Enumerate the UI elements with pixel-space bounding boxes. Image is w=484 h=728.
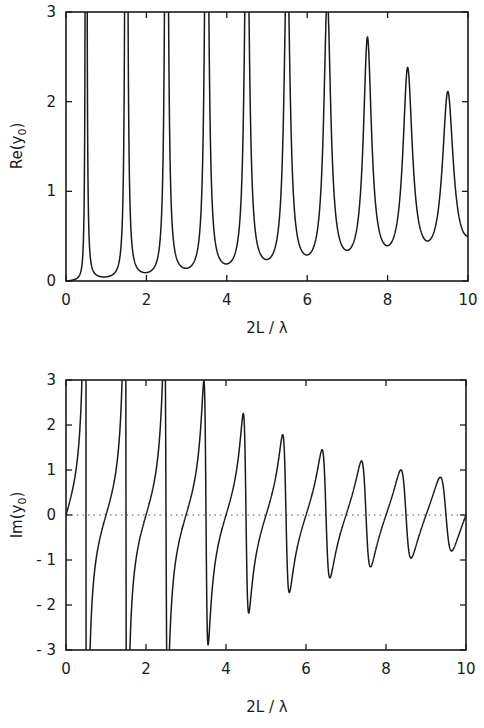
data-line-segment — [128, 12, 164, 273]
x-tick-label: 4 — [222, 291, 232, 309]
y-tick-label: 3 — [46, 371, 56, 389]
x-tick-label: 0 — [61, 660, 71, 678]
x-tick-label: 10 — [456, 660, 475, 678]
x-tick-label: 6 — [301, 660, 311, 678]
data-line-segment — [165, 380, 166, 650]
x-tick-label: 4 — [221, 660, 231, 678]
y-tick-label: 3 — [46, 3, 56, 21]
data-line-segment — [289, 12, 326, 255]
data-line-segment — [66, 380, 82, 515]
re-y0-curve — [66, 12, 468, 281]
data-line-segment — [249, 12, 285, 260]
im-y0-panel: 0246810- 3- 2- 10123 2L / λ Im(y0) — [8, 371, 476, 716]
x-tick-label: 0 — [61, 291, 71, 309]
figure: 02468100123 2L / λ Re(y0) 0246810- 3- 2-… — [0, 0, 484, 728]
y-tick-label: 2 — [46, 416, 56, 434]
re-y0-panel: 02468100123 2L / λ Re(y0) — [8, 3, 478, 337]
top-x-axis-label: 2L / λ — [246, 319, 287, 337]
top-y-axis-label: Re(y0) — [8, 123, 29, 170]
data-line-segment — [87, 12, 124, 277]
x-tick-label: 8 — [383, 291, 393, 309]
im-y0-curve — [66, 380, 466, 650]
data-line-segment — [66, 12, 85, 281]
data-line-segment — [130, 380, 163, 650]
x-tick-label: 10 — [458, 291, 477, 309]
top-plot-frame — [66, 12, 468, 281]
y-tick-label: 2 — [46, 93, 56, 111]
x-tick-label: 2 — [142, 291, 152, 309]
y-tick-label: 0 — [46, 506, 56, 524]
x-tick-label: 2 — [141, 660, 151, 678]
y-tick-label: - 2 — [36, 596, 56, 614]
x-tick-label: 8 — [381, 660, 391, 678]
y-tick-label: - 3 — [36, 641, 56, 659]
y-tick-label: 1 — [46, 182, 56, 200]
y-tick-label: 0 — [46, 272, 56, 290]
bottom-y-axis-label: Im(y0) — [8, 492, 29, 539]
data-line-segment — [209, 12, 245, 264]
bottom-x-axis-label: 2L / λ — [246, 698, 287, 716]
bottom-tick-labels: 0246810- 3- 2- 10123 — [36, 371, 475, 678]
data-line-segment — [328, 12, 468, 250]
data-line-segment — [169, 381, 466, 650]
data-line-segment — [169, 12, 205, 268]
top-axis-ticks — [66, 12, 468, 281]
y-tick-label: - 1 — [36, 551, 56, 569]
y-tick-label: 1 — [46, 461, 56, 479]
x-tick-label: 6 — [302, 291, 312, 309]
